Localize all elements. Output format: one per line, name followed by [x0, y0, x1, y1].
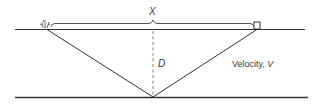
offset-label: X	[149, 7, 156, 17]
depth-label: D	[158, 59, 165, 69]
receiver-geophone-icon	[254, 22, 260, 29]
velocity-label: Velocity, V	[232, 60, 273, 69]
offset-brace	[51, 20, 254, 27]
incident-ray	[47, 30, 153, 98]
velocity-label-var: V	[267, 59, 273, 69]
source-shot-icon	[40, 20, 50, 28]
velocity-label-prefix: Velocity,	[232, 59, 267, 69]
diagram-canvas	[0, 0, 322, 106]
